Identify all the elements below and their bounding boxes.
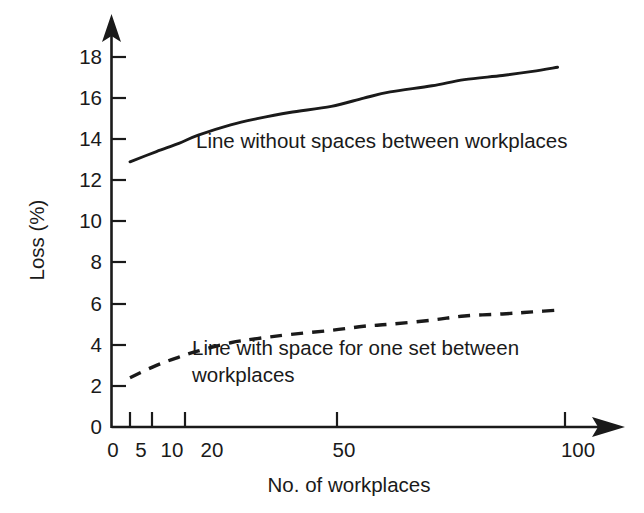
x-tick-label-100: 100 (561, 438, 595, 461)
y-tick-label-0: 0 (91, 415, 102, 438)
annotation-lower-line1: Line with space for one set between (192, 336, 519, 359)
x-tick-label-5: 5 (135, 438, 146, 461)
annotation-upper: Line without spaces between workplaces (196, 129, 568, 152)
x-tick-label-10: 10 (161, 438, 184, 461)
annotation-lower-line2: workplaces (191, 363, 295, 386)
chart-svg: 18 16 14 12 10 8 6 4 2 0 0 5 10 20 50 10… (0, 0, 644, 513)
y-axis-title: Loss (%) (25, 200, 48, 281)
x-tick-label-50: 50 (333, 438, 356, 461)
y-tick-label-6: 6 (91, 292, 102, 315)
y-tick-label-4: 4 (91, 333, 102, 356)
y-tick-label-18: 18 (79, 45, 102, 68)
y-tick-label-14: 14 (79, 127, 102, 150)
x-axis-title: No. of workplaces (268, 473, 431, 496)
y-tick-label-2: 2 (91, 374, 102, 397)
chart-figure: 18 16 14 12 10 8 6 4 2 0 0 5 10 20 50 10… (0, 0, 644, 513)
y-tick-label-10: 10 (79, 209, 102, 232)
x-tick-label-20: 20 (201, 438, 224, 461)
y-tick-label-12: 12 (79, 168, 102, 191)
x-tick-label-0: 0 (107, 438, 118, 461)
y-tick-label-16: 16 (79, 86, 102, 109)
y-tick-label-8: 8 (91, 250, 102, 273)
